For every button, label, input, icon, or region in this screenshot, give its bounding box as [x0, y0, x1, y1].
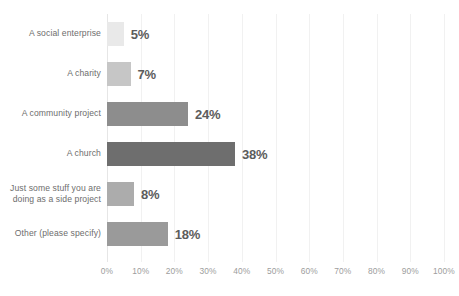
bar-value-label: 18%	[175, 227, 200, 242]
bar-row: A social enterprise5%	[0, 14, 459, 54]
x-axis: 0%10%20%30%40%50%60%70%80%90%100%	[107, 266, 444, 282]
bar[interactable]	[107, 22, 124, 46]
bar-chart: A social enterprise5%A charity7%A commun…	[0, 0, 459, 296]
x-tick-label: 70%	[334, 266, 351, 276]
bar-group: 7%	[107, 62, 156, 86]
x-tick-label: 80%	[368, 266, 385, 276]
x-tick-label: 50%	[267, 266, 284, 276]
bar[interactable]	[107, 222, 168, 246]
x-tick-label: 0%	[101, 266, 113, 276]
category-label: Other (please specify)	[0, 228, 101, 240]
x-tick-label: 40%	[233, 266, 250, 276]
x-tick-label: 30%	[200, 266, 217, 276]
bar-group: 24%	[107, 102, 220, 126]
bar-row: Just some stuff you are doing as a side …	[0, 174, 459, 214]
bar[interactable]	[107, 62, 131, 86]
x-tick-label: 10%	[132, 266, 149, 276]
bar[interactable]	[107, 102, 188, 126]
bar[interactable]	[107, 142, 235, 166]
bar-rows: A social enterprise5%A charity7%A commun…	[0, 14, 459, 262]
category-label: A church	[0, 148, 101, 160]
bar-value-label: 5%	[131, 27, 149, 42]
category-label: Just some stuff you are doing as a side …	[0, 183, 101, 206]
bar-group: 8%	[107, 182, 159, 206]
bar-row: A community project24%	[0, 94, 459, 134]
bar-value-label: 8%	[141, 187, 159, 202]
bar-row: A church38%	[0, 134, 459, 174]
bar-value-label: 38%	[242, 147, 267, 162]
bar-row: A charity7%	[0, 54, 459, 94]
bar-group: 5%	[107, 22, 149, 46]
x-tick-label: 90%	[402, 266, 419, 276]
bar-row: Other (please specify)18%	[0, 214, 459, 254]
bar-group: 38%	[107, 142, 267, 166]
category-label: A charity	[0, 68, 101, 80]
bar-value-label: 7%	[138, 67, 156, 82]
bar-value-label: 24%	[195, 107, 220, 122]
bar-group: 18%	[107, 222, 200, 246]
category-label: A community project	[0, 108, 101, 120]
bar[interactable]	[107, 182, 134, 206]
x-tick-label: 60%	[301, 266, 318, 276]
category-label: A social enterprise	[0, 28, 101, 40]
x-tick-label: 20%	[166, 266, 183, 276]
x-tick-label: 100%	[433, 266, 455, 276]
